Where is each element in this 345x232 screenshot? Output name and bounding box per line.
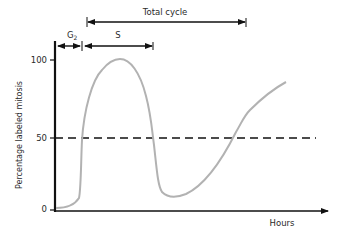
- chart: 100 50 0 Percentage labeled mitosis Hour…: [0, 0, 345, 232]
- total-cycle-label: Total cycle: [142, 7, 188, 17]
- tick-label-50: 50: [36, 133, 47, 143]
- tick-label-100: 100: [31, 55, 47, 65]
- x-axis-label: Hours: [270, 218, 295, 228]
- g2-label: G2: [67, 30, 78, 41]
- tick-label-0: 0: [42, 204, 47, 214]
- labeled-mitosis-curve: [56, 59, 286, 208]
- y-axis-label: Percentage labeled mitosis: [15, 81, 24, 189]
- s-label: S: [115, 30, 120, 40]
